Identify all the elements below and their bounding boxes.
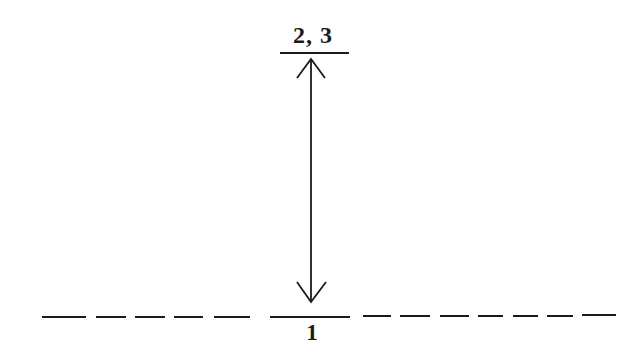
upper-level-label: 2, 3 [293,23,333,47]
lower-level-dashed-line [42,315,616,317]
energy-diagram [0,0,644,352]
lower-level-label: 1 [306,321,318,344]
